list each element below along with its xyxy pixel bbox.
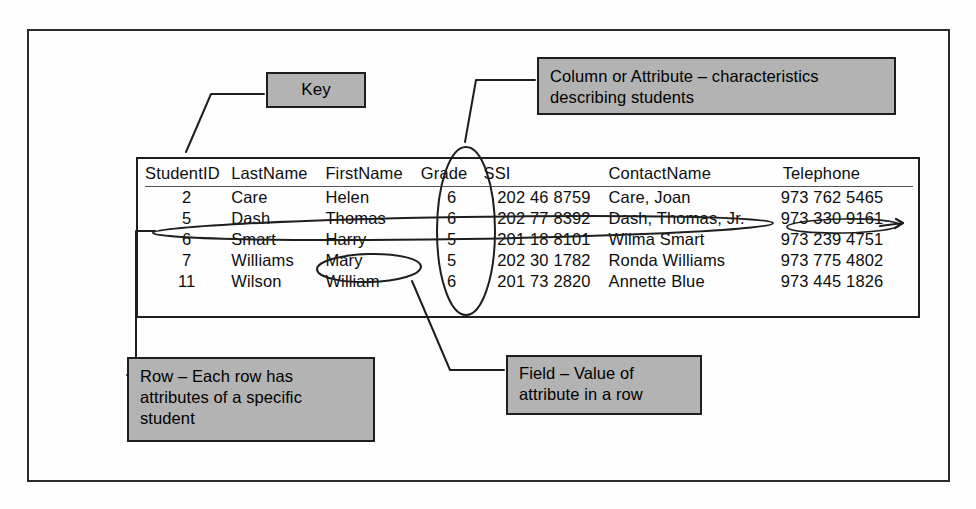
- callout-field: Field – Value of attribute in a row: [506, 355, 702, 415]
- cell-ssi: 201 18 8101: [484, 229, 605, 250]
- table-row: 6 Smart Harry 5 201 18 8101 Wilma Smart …: [145, 229, 913, 250]
- table-row: 2 Care Helen 6 202 46 8759 Care, Joan 97…: [145, 187, 913, 209]
- cell-lastname: Smart: [228, 229, 322, 250]
- cell-telephone: 973 762 5465: [775, 187, 913, 209]
- cell-lastname: Care: [228, 187, 322, 209]
- cell-ssi: 202 30 1782: [484, 250, 605, 271]
- cell-lastname: Wilson: [228, 271, 322, 292]
- cell-telephone: 973 445 1826: [775, 271, 913, 292]
- cell-contactname: Dash, Thomas, Jr.: [604, 208, 774, 229]
- callout-row: Row – Each row has attributes of a speci…: [127, 357, 375, 442]
- column-header-firstname: FirstName: [322, 163, 419, 187]
- cell-ssi: 202 77 8392: [484, 208, 605, 229]
- column-header-ssi: SSI: [484, 163, 605, 187]
- cell-telephone: 973 775 4802: [775, 250, 913, 271]
- column-header-studentid: StudentID: [145, 163, 228, 187]
- cell-telephone: 973 330 9161: [775, 208, 913, 229]
- column-header-grade: Grade: [420, 163, 484, 187]
- table-row: 11 Wilson William 6 201 73 2820 Annette …: [145, 271, 913, 292]
- callout-column-attribute: Column or Attribute – characteristics de…: [537, 57, 896, 115]
- callout-row-label: Row – Each row has attributes of a speci…: [140, 366, 302, 429]
- cell-ssi: 202 46 8759: [484, 187, 605, 209]
- cell-contactname: Annette Blue: [604, 271, 774, 292]
- cell-grade: 5: [420, 250, 484, 271]
- callout-field-label: Field – Value of attribute in a row: [519, 363, 643, 405]
- cell-firstname: Harry: [322, 229, 419, 250]
- cell-ssi: 201 73 2820: [484, 271, 605, 292]
- table-row: 5 Dash Thomas 6 202 77 8392 Dash, Thomas…: [145, 208, 913, 229]
- cell-studentid: 5: [145, 208, 228, 229]
- student-data-table: StudentID LastName FirstName Grade SSI C…: [145, 163, 913, 292]
- cell-grade: 5: [420, 229, 484, 250]
- cell-lastname: Dash: [228, 208, 322, 229]
- cell-contactname: Ronda Williams: [604, 250, 774, 271]
- cell-telephone: 973 239 4751: [775, 229, 913, 250]
- table-row: 7 Williams Mary 5 202 30 1782 Ronda Will…: [145, 250, 913, 271]
- callout-key: Key: [266, 72, 366, 108]
- table-header-row: StudentID LastName FirstName Grade SSI C…: [145, 163, 913, 187]
- column-header-contactname: ContactName: [604, 163, 774, 187]
- cell-contactname: Wilma Smart: [604, 229, 774, 250]
- cell-lastname: Williams: [228, 250, 322, 271]
- cell-firstname: Thomas: [322, 208, 419, 229]
- cell-studentid: 7: [145, 250, 228, 271]
- scanned-page: StudentID LastName FirstName Grade SSI C…: [0, 0, 976, 509]
- cell-grade: 6: [420, 187, 484, 209]
- cell-firstname: Mary: [322, 250, 419, 271]
- cell-contactname: Care, Joan: [604, 187, 774, 209]
- cell-studentid: 6: [145, 229, 228, 250]
- cell-studentid: 11: [145, 271, 228, 292]
- cell-grade: 6: [420, 271, 484, 292]
- column-header-telephone: Telephone: [775, 163, 913, 187]
- cell-firstname: William: [322, 271, 419, 292]
- callout-column-label: Column or Attribute – characteristics de…: [550, 66, 819, 108]
- cell-studentid: 2: [145, 187, 228, 209]
- column-header-lastname: LastName: [228, 163, 322, 187]
- cell-grade: 6: [420, 208, 484, 229]
- callout-key-label: Key: [301, 79, 331, 101]
- cell-firstname: Helen: [322, 187, 419, 209]
- table-body: 2 Care Helen 6 202 46 8759 Care, Joan 97…: [145, 187, 913, 293]
